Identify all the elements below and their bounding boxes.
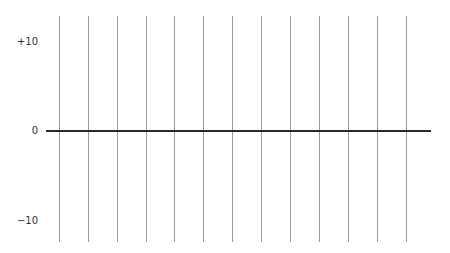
- number-line-diagram: +10 0 −10: [0, 0, 450, 253]
- vertical-grid-line: [146, 16, 147, 242]
- vertical-grid-line: [290, 16, 291, 242]
- vertical-grid-line: [117, 16, 118, 242]
- vertical-grid-line: [232, 16, 233, 242]
- vertical-grid-line: [174, 16, 175, 242]
- vertical-grid-line: [348, 16, 349, 242]
- vertical-grid-line: [88, 16, 89, 242]
- y-label-minus-10: −10: [8, 215, 38, 227]
- y-label-zero: 0: [8, 125, 38, 137]
- vertical-grid-line: [59, 16, 60, 242]
- vertical-grid-line: [377, 16, 378, 242]
- zero-axis-line: [46, 130, 431, 132]
- vertical-grid-line: [203, 16, 204, 242]
- vertical-grid-line: [406, 16, 407, 242]
- y-label-plus-10: +10: [8, 36, 38, 48]
- vertical-grid-line: [261, 16, 262, 242]
- vertical-grid-line: [319, 16, 320, 242]
